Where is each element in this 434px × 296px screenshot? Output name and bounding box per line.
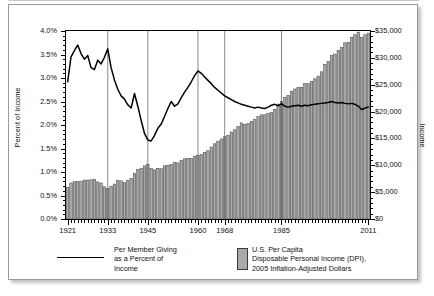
tick-mark xyxy=(181,220,182,223)
tick-mark xyxy=(201,220,202,223)
tick-mark xyxy=(258,220,259,223)
tick-mark xyxy=(271,220,272,223)
bar xyxy=(310,81,312,219)
legend-label-giving: Per Member Giving as a Percent of Income xyxy=(114,245,234,273)
tick-mark xyxy=(165,220,166,223)
bar xyxy=(367,33,369,219)
tick-mark xyxy=(178,220,179,223)
tick-mark xyxy=(151,220,152,223)
tick-mark xyxy=(371,198,373,199)
tick-mark xyxy=(121,220,122,223)
tick-mark xyxy=(168,220,169,223)
tick-mark xyxy=(101,220,102,223)
tick-mark xyxy=(315,220,316,223)
tick-mark xyxy=(195,220,196,223)
tick-mark xyxy=(371,187,373,188)
tick-mark xyxy=(371,36,373,37)
bar xyxy=(76,182,78,219)
tick-mark xyxy=(312,220,313,223)
bar xyxy=(73,182,75,219)
tick-mark xyxy=(88,220,89,223)
bar xyxy=(70,183,72,219)
bar xyxy=(66,187,68,219)
bar xyxy=(83,180,85,219)
tick-mark xyxy=(124,220,125,223)
tick-mark xyxy=(371,208,373,209)
bar xyxy=(270,113,272,219)
y-tick-label-right: $35,000 xyxy=(375,26,415,35)
tick-mark xyxy=(305,220,306,223)
bar xyxy=(103,187,105,219)
tick-mark xyxy=(371,144,373,145)
tick-mark xyxy=(322,220,323,223)
tick-mark xyxy=(342,220,343,223)
tick-mark xyxy=(295,220,296,223)
tick-mark xyxy=(371,52,373,53)
left-axis-title: Percent of Income xyxy=(13,83,22,153)
tick-mark xyxy=(371,101,373,102)
tick-mark xyxy=(208,220,209,223)
x-tick-label: 1985 xyxy=(261,226,301,235)
tick-mark xyxy=(371,47,373,48)
tick-mark xyxy=(68,220,69,223)
bar xyxy=(264,115,266,219)
right-axis-title: Income xyxy=(418,106,427,166)
bar xyxy=(110,186,112,219)
bar xyxy=(317,76,319,219)
y-tick-label-right: $20,000 xyxy=(375,107,415,116)
tick-mark xyxy=(371,106,373,107)
tick-mark xyxy=(71,220,72,223)
y-tick-label-right: $0 xyxy=(375,214,415,223)
bar xyxy=(160,169,162,219)
bar-series xyxy=(66,32,369,219)
y-tick-label-right: $5,000 xyxy=(375,187,415,196)
tick-mark xyxy=(248,220,249,223)
tick-mark xyxy=(205,220,206,223)
bar xyxy=(183,159,185,219)
plot-area xyxy=(65,30,371,220)
bar xyxy=(350,37,352,219)
y-tick-label-left: 3.0% xyxy=(23,73,57,82)
chart-legend: Per Member Giving as a Percent of Income… xyxy=(9,243,419,281)
tick-mark xyxy=(118,220,119,223)
tick-mark xyxy=(371,90,373,91)
bar xyxy=(193,157,195,219)
bar xyxy=(127,180,129,219)
tick-mark xyxy=(371,155,373,156)
y-tick-label-left: 2.5% xyxy=(23,97,57,106)
bar xyxy=(307,84,309,219)
bar xyxy=(123,182,125,219)
tick-mark xyxy=(371,85,375,86)
y-tick-label-left: 2.0% xyxy=(23,120,57,129)
tick-mark xyxy=(255,220,256,223)
tick-mark xyxy=(228,220,229,223)
bar xyxy=(233,130,235,219)
bar xyxy=(247,123,249,219)
tick-mark xyxy=(225,220,226,223)
tick-mark xyxy=(171,220,172,223)
bar xyxy=(290,91,292,219)
tick-mark xyxy=(245,220,246,223)
tick-mark xyxy=(348,220,349,223)
bar xyxy=(287,95,289,219)
y-tick-label-right: $30,000 xyxy=(375,53,415,62)
bar xyxy=(277,104,279,219)
legend-label-dpi: U.S. Per Capita Disposable Personal Inco… xyxy=(252,245,417,273)
tick-mark xyxy=(235,220,236,223)
tick-mark xyxy=(98,220,99,223)
bar xyxy=(227,135,229,219)
bar xyxy=(230,132,232,219)
tick-mark xyxy=(332,220,333,223)
tick-mark xyxy=(108,220,109,223)
tick-mark xyxy=(362,220,363,223)
bar xyxy=(334,54,336,219)
tick-mark xyxy=(371,192,375,193)
tick-mark xyxy=(215,220,216,223)
tick-mark xyxy=(371,128,373,129)
bar xyxy=(117,181,119,219)
chart-figure: Percent of Income Income 0.0%0.5%1.0%1.5… xyxy=(8,4,418,280)
bar xyxy=(324,64,326,219)
tick-mark xyxy=(371,203,373,204)
tick-mark xyxy=(198,220,199,223)
tick-mark xyxy=(268,220,269,223)
